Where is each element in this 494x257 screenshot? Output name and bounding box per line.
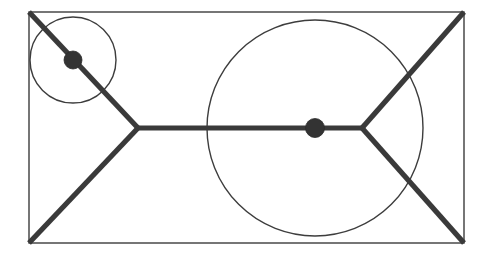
edge-top-right-to-right-junction	[362, 12, 464, 128]
node-small-circle-center	[64, 51, 82, 69]
node-large-circle-center	[306, 119, 325, 138]
edge-bottom-right-to-right-junction	[362, 128, 464, 243]
edge-bottom-left-to-left-junction	[29, 128, 138, 243]
edge-group	[29, 12, 464, 243]
geometry-figure	[0, 0, 494, 257]
edge-top-left-to-left-junction	[29, 12, 138, 128]
diagram-canvas	[0, 0, 494, 257]
